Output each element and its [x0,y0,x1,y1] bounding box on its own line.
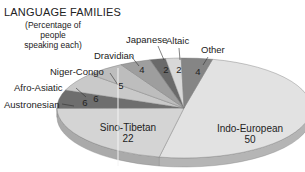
pie-graphic: Indo-European50Sino-Tibetan22Austronesia… [0,0,305,172]
label-dravidian: Dravidian [94,50,134,61]
value-indo-european: 50 [244,134,256,145]
value-afro-asiatic: 6 [93,93,98,104]
value-niger-congo: 5 [118,80,123,91]
label-other: Other [201,44,225,55]
value-austronesian: 6 [82,97,87,108]
label-niger-congo: Niger-Congo [50,66,104,77]
label-sino-tibetan: Sino-Tibetan [100,122,156,133]
leader-line-japanese [158,46,164,60]
pie-chart: LANGUAGE FAMILIES (Percentage of people … [0,0,305,172]
label-austronesian: Austronesian [4,99,59,110]
label-japanese: Japanese [126,34,167,45]
value-other: 4 [195,66,200,77]
value-dravidian: 4 [139,64,144,75]
value-altaic: 2 [176,64,181,75]
label-afro-asiatic: Afro-Asiatic [14,82,63,93]
value-japanese: 2 [163,64,168,75]
value-sino-tibetan: 22 [122,133,134,144]
label-indo-european: Indo-European [217,123,283,134]
label-altaic: Altaic [166,35,189,46]
